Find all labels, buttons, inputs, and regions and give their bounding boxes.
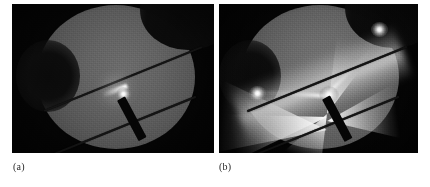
figure-root: (a) (b) xyxy=(0,0,430,187)
caption-panel-b: (b) xyxy=(219,161,231,172)
panel-b-wrapper xyxy=(219,4,418,153)
caption-panel-a: (a) xyxy=(13,161,25,172)
bright-spot-left-b xyxy=(249,86,266,101)
panel-b-image[interactable] xyxy=(219,4,418,153)
dark-rim-notch-a xyxy=(16,40,80,112)
panel-a-wrapper xyxy=(12,4,214,153)
panel-a-image[interactable] xyxy=(12,4,214,153)
bright-spot-upper-right-b xyxy=(371,22,388,37)
